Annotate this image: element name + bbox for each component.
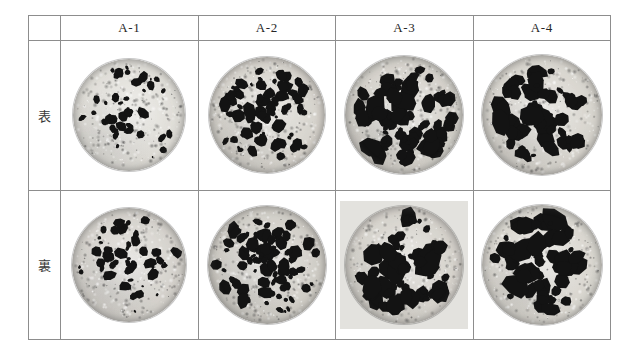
specimen-disc [345, 206, 463, 324]
specimen-disc [209, 57, 325, 173]
row-header-ura: 裏 [29, 190, 61, 340]
specimen-comparison-table: A-1 A-2 A-3 A-4 表 裏 [28, 15, 611, 340]
specimen-photo-omote-a1 [65, 51, 193, 179]
specimen-photo-ura-a3 [340, 201, 468, 329]
specimen-photo-ura-a2 [203, 201, 331, 329]
specimen-photo-ura-a1 [65, 201, 193, 329]
table-row-omote: 表 [29, 41, 611, 191]
specimen-disc [345, 56, 463, 174]
specimen-disc [73, 59, 185, 171]
column-header-a1: A-1 [61, 16, 199, 41]
column-header-a3: A-3 [336, 16, 474, 41]
column-header-a4: A-4 [473, 16, 611, 41]
specimen-cell-omote-a2 [198, 41, 336, 191]
specimen-cell-ura-a1 [61, 190, 199, 340]
table-header-row: A-1 A-2 A-3 A-4 [29, 16, 611, 41]
specimen-disc [72, 208, 186, 322]
column-header-a2: A-2 [198, 16, 336, 41]
specimen-photo-omote-a2 [203, 51, 331, 179]
specimen-photo-ura-a4 [478, 201, 606, 329]
row-header-omote: 表 [29, 41, 61, 191]
table-row-ura: 裏 [29, 190, 611, 340]
specimen-disc [482, 55, 602, 175]
specimen-cell-ura-a4 [473, 190, 611, 340]
specimen-cell-ura-a2 [198, 190, 336, 340]
specimen-cell-omote-a3 [336, 41, 474, 191]
specimen-photo-omote-a3 [340, 51, 468, 179]
specimen-cell-ura-a3 [336, 190, 474, 340]
figure-root: A-1 A-2 A-3 A-4 表 裏 [0, 0, 643, 355]
specimen-cell-omote-a4 [473, 41, 611, 191]
table-corner-cell [29, 16, 61, 41]
specimen-disc [482, 205, 602, 325]
specimen-photo-omote-a4 [478, 51, 606, 179]
specimen-cell-omote-a1 [61, 41, 199, 191]
specimen-disc [208, 206, 326, 324]
